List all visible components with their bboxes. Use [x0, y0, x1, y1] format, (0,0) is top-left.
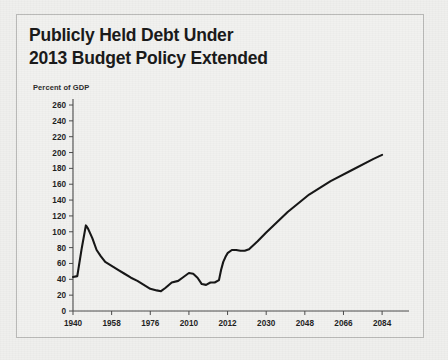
svg-text:140: 140 — [52, 196, 66, 205]
svg-text:60: 60 — [57, 259, 67, 268]
svg-text:2030: 2030 — [257, 319, 276, 328]
svg-text:0: 0 — [61, 307, 66, 316]
svg-text:120: 120 — [52, 212, 66, 221]
svg-text:220: 220 — [52, 133, 66, 142]
svg-text:180: 180 — [52, 164, 66, 173]
svg-text:260: 260 — [52, 101, 66, 110]
svg-text:100: 100 — [52, 228, 66, 237]
line-chart-plot: 0204060801001201401601802002202402601940… — [17, 15, 425, 339]
svg-text:2010: 2010 — [180, 319, 199, 328]
svg-text:1940: 1940 — [64, 319, 83, 328]
svg-text:2084: 2084 — [373, 319, 392, 328]
svg-text:40: 40 — [57, 275, 67, 284]
svg-text:20: 20 — [57, 291, 67, 300]
figure-panel: Publicly Held Debt Under 2013 Budget Pol… — [16, 14, 424, 338]
svg-text:160: 160 — [52, 180, 66, 189]
svg-text:2066: 2066 — [334, 319, 353, 328]
svg-text:2048: 2048 — [296, 319, 315, 328]
svg-text:240: 240 — [52, 117, 66, 126]
svg-text:1976: 1976 — [141, 319, 160, 328]
data-series-line — [73, 155, 382, 291]
svg-text:2012: 2012 — [218, 319, 237, 328]
svg-text:200: 200 — [52, 149, 66, 158]
svg-text:80: 80 — [57, 244, 67, 253]
svg-text:1958: 1958 — [103, 319, 122, 328]
